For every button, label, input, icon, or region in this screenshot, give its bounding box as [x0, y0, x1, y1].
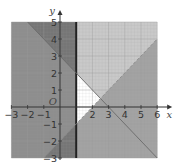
y-tick-label: 3: [51, 51, 57, 62]
x-tick-label: 6: [154, 109, 160, 120]
y-tick-label: −1: [43, 119, 57, 130]
y-tick-label: 2: [51, 68, 57, 79]
x-tick-label: −3: [4, 109, 18, 120]
x-tick-label: 5: [138, 109, 144, 120]
x-tick-label: 4: [122, 109, 128, 120]
y-axis-label: y: [48, 5, 55, 16]
y-tick-label: 5: [51, 17, 57, 28]
x-tick-label: 3: [106, 109, 112, 120]
y-axis-arrow-icon: [58, 10, 63, 15]
inequality-graph: −3−2−123456−3−2−112345Oxy: [0, 0, 181, 167]
x-tick-label: −2: [21, 109, 35, 120]
y-tick-label: −2: [43, 136, 57, 147]
origin-label: O: [49, 96, 57, 107]
y-tick-label: 4: [51, 34, 57, 45]
y-tick-label: −3: [43, 153, 57, 164]
grid-lines: [11, 22, 157, 158]
x-tick-label: 2: [89, 109, 95, 120]
x-axis-label: x: [166, 109, 172, 120]
y-tick-label: 1: [51, 85, 57, 96]
